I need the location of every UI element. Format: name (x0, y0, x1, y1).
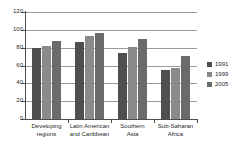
y-tick-label: 100 (13, 26, 23, 33)
bar (52, 41, 61, 119)
bar (171, 68, 180, 119)
legend-item: 1999 (207, 69, 245, 79)
y-tick-label: 0 (20, 115, 23, 122)
y-tick-label: 40 (16, 79, 23, 86)
x-axis-category-label: Developing regions (25, 123, 68, 138)
bar (95, 33, 104, 119)
x-axis-category-label: Latin American and Caribbean (68, 123, 111, 138)
x-tick-mark (68, 119, 69, 123)
legend-item: 2005 (207, 79, 245, 89)
legend-label: 2005 (215, 81, 228, 88)
bar-group (118, 12, 147, 119)
y-tick-label: 20 (16, 97, 23, 104)
bar (85, 36, 94, 119)
bar-group (32, 12, 61, 119)
bar-group (75, 12, 104, 119)
legend-swatch-icon (207, 82, 212, 87)
legend-swatch-icon (207, 72, 212, 77)
x-tick-mark (154, 119, 155, 123)
legend-item: 1991 (207, 59, 245, 69)
legend-swatch-icon (207, 62, 212, 67)
x-axis-category-label: Sub-Saharan Africa (154, 123, 197, 138)
x-tick-mark (111, 119, 112, 123)
x-tick-mark (197, 119, 198, 123)
bar (75, 42, 84, 119)
bar (32, 48, 41, 119)
x-axis-category-label: Southern Asia (111, 123, 154, 138)
y-tick-label: 60 (16, 62, 23, 69)
legend-label: 1991 (215, 61, 228, 68)
bar-chart: 020406080100120 Developing regionsLatin … (0, 0, 247, 144)
legend: 199119992005 (207, 59, 245, 89)
bar-group (161, 12, 190, 119)
y-tick-label: 120 (13, 8, 23, 15)
bar (138, 39, 147, 119)
legend-label: 1999 (215, 71, 228, 78)
bar (118, 53, 127, 119)
y-axis-line (25, 11, 26, 120)
bar (161, 70, 170, 119)
y-tick-label: 80 (16, 44, 23, 51)
bar (181, 56, 190, 119)
bar (42, 46, 51, 119)
bar (128, 47, 137, 119)
